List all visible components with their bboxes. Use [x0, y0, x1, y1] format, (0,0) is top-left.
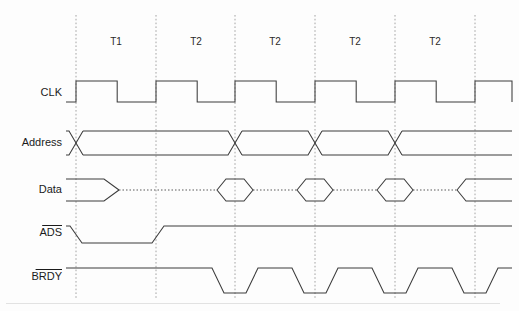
waveform-address-upper: [66, 131, 512, 155]
timing-diagram-figure: T1T2T2T2T2 CLKAddressDataADSBRDY: [0, 0, 519, 311]
waveform-clk: [66, 81, 512, 102]
phase-label-1: T2: [190, 36, 202, 47]
signal-label-ads: ADS: [39, 226, 62, 238]
signal-label-clk: CLK: [41, 86, 63, 98]
phase-labels: T1T2T2T2T2: [110, 36, 441, 47]
signal-labels: CLKAddressDataADSBRDY: [22, 86, 63, 282]
signal-waveforms: [66, 81, 512, 293]
signal-label-address: Address: [22, 136, 63, 148]
waveform-ads: [66, 226, 512, 243]
signal-label-data: Data: [39, 183, 63, 195]
waveform-data-close-lower: [457, 190, 512, 201]
signal-label-brdy: BRDY: [31, 270, 62, 282]
waveform-address-lower: [66, 131, 512, 155]
clock-gridlines: [76, 15, 475, 300]
waveform-brdy: [66, 268, 512, 293]
waveform-data-close-upper: [457, 179, 512, 190]
phase-label-2: T2: [269, 36, 281, 47]
phase-label-3: T2: [349, 36, 361, 47]
waveform-data-open-upper: [66, 179, 119, 190]
phase-label-0: T1: [110, 36, 122, 47]
phase-label-4: T2: [429, 36, 441, 47]
waveform-data-open-lower: [66, 190, 119, 201]
timing-diagram-canvas: T1T2T2T2T2 CLKAddressDataADSBRDY: [0, 0, 519, 311]
